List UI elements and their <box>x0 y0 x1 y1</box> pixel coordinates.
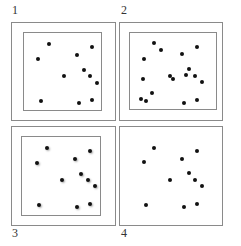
outer-frame <box>119 126 223 226</box>
dot <box>159 48 163 52</box>
dot <box>144 203 148 207</box>
dot <box>182 205 186 209</box>
dot <box>195 202 199 206</box>
dot <box>88 74 92 78</box>
dot <box>88 149 92 153</box>
dot <box>171 77 175 81</box>
dot <box>95 81 99 85</box>
dot <box>193 74 197 78</box>
dot <box>86 178 90 182</box>
dot <box>90 98 94 102</box>
dot <box>35 161 39 165</box>
panel-label: 1 <box>12 4 18 16</box>
dot <box>139 97 143 101</box>
dot <box>75 205 79 209</box>
dot <box>45 146 49 150</box>
dot <box>73 157 77 161</box>
panel-label: 3 <box>12 227 18 239</box>
dot <box>142 160 146 164</box>
dot <box>77 101 81 105</box>
dot <box>79 172 83 176</box>
panel-label: 2 <box>121 4 127 16</box>
dot <box>82 68 86 72</box>
dot <box>152 146 156 150</box>
dot <box>200 184 204 188</box>
dot <box>195 98 199 102</box>
dot <box>182 101 186 105</box>
dot <box>75 53 79 57</box>
dot <box>195 45 199 49</box>
dot <box>88 202 92 206</box>
dot <box>200 80 204 84</box>
dot <box>37 203 41 207</box>
dot <box>39 99 43 103</box>
dot <box>193 178 197 182</box>
dot <box>187 67 191 71</box>
dot <box>144 99 148 103</box>
panel-label: 4 <box>121 227 127 239</box>
dot <box>168 178 172 182</box>
dot <box>195 149 199 153</box>
dot <box>90 45 94 49</box>
dot <box>180 157 184 161</box>
dot <box>187 171 191 175</box>
dot <box>150 91 154 95</box>
dot <box>180 52 184 56</box>
dot <box>141 77 145 81</box>
dot <box>152 41 156 45</box>
dot <box>62 74 66 78</box>
dot <box>47 42 51 46</box>
dot <box>142 57 146 61</box>
dot <box>184 73 188 77</box>
dot <box>36 57 40 61</box>
dot <box>93 184 97 188</box>
dot <box>60 178 64 182</box>
